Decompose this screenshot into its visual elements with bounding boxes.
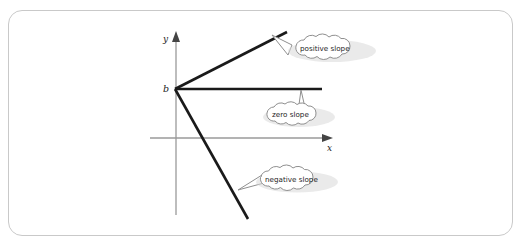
x-axis-label: x	[327, 143, 332, 153]
slope-diagram: y x b positive slope zero slope negative…	[0, 0, 528, 247]
y-axis: y	[162, 31, 180, 215]
callout-positive-slope: positive slope	[272, 34, 376, 62]
callout-negative-slope-label: negative slope	[265, 175, 318, 184]
y-intercept-label: b	[163, 83, 169, 94]
callout-negative-slope: negative slope	[238, 165, 338, 193]
callout-zero-slope: zero slope	[263, 90, 335, 127]
y-axis-label: y	[162, 34, 169, 44]
callout-positive-slope-label: positive slope	[300, 44, 350, 53]
callout-zero-slope-label: zero slope	[272, 110, 309, 119]
positive-slope-line	[175, 32, 287, 89]
x-axis: x	[150, 134, 333, 153]
negative-slope-line	[175, 89, 248, 219]
